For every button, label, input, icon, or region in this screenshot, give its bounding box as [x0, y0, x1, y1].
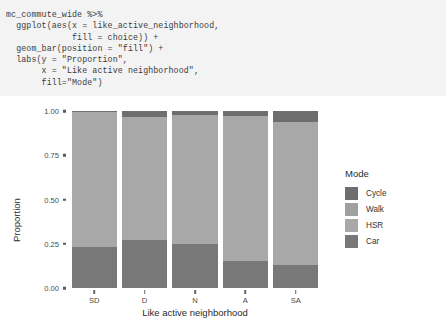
y-axis-tick-mark [63, 287, 66, 290]
bar-segment[interactable] [172, 115, 217, 244]
legend-item[interactable]: HSR [341, 217, 441, 233]
legend-swatch [345, 219, 358, 232]
bar-segment[interactable] [273, 122, 318, 265]
x-axis-tick-mark [194, 290, 196, 294]
x-axis-tick-mark [144, 290, 146, 294]
x-axis-tick-label: D [125, 296, 165, 305]
y-axis-tick-label: 0.75 [33, 151, 59, 160]
y-axis-tick-mark [63, 243, 66, 246]
legend-label: Cycle [366, 189, 386, 198]
legend-label: Walk [366, 205, 384, 214]
bar-segment[interactable] [72, 112, 117, 247]
y-axis-tick-label: 0.50 [33, 195, 59, 204]
bar-stack[interactable] [122, 111, 167, 288]
legend-item[interactable]: Walk [341, 201, 441, 217]
y-axis-tick-mark [63, 154, 66, 157]
x-axis-label: Like active neighborhood [69, 307, 321, 318]
bar-segment[interactable] [172, 111, 217, 115]
y-axis-tick-label: 0.25 [33, 239, 59, 248]
legend: Mode CycleWalkHSRCar [341, 168, 441, 249]
y-axis-tick-mark [63, 198, 66, 201]
bar-segment[interactable] [72, 247, 117, 288]
bar-segment[interactable] [122, 117, 167, 240]
bar-segment[interactable] [223, 261, 268, 288]
bar-segment[interactable] [122, 111, 167, 117]
bar-segment[interactable] [122, 240, 167, 288]
legend-swatch [345, 203, 358, 216]
x-axis-tick-label: N [175, 296, 215, 305]
legend-label: HSR [366, 221, 383, 230]
x-axis-tick-label: SA [276, 296, 316, 305]
bar-stack[interactable] [72, 111, 117, 288]
code-chunk: mc_commute_wide %>% ggplot(aes(x = like_… [0, 0, 446, 96]
bar-segment[interactable] [223, 116, 268, 261]
legend-swatch [345, 187, 358, 200]
x-axis-tick-label: SD [74, 296, 114, 305]
legend-items: CycleWalkHSRCar [341, 185, 441, 249]
bar-segment[interactable] [172, 244, 217, 288]
legend-swatch [345, 235, 358, 248]
bar-stack[interactable] [273, 111, 318, 288]
legend-item[interactable]: Cycle [341, 185, 441, 201]
x-axis-tick-mark [295, 290, 297, 294]
ggplot-figure: Proportion 0.000.250.500.751.00 SDDNASA … [0, 104, 446, 324]
y-axis-tick-label: 1.00 [33, 107, 59, 116]
code-chunk-text: mc_commute_wide %>% ggplot(aes(x = like_… [6, 9, 446, 88]
bar-segment[interactable] [273, 111, 318, 122]
legend-item[interactable]: Car [341, 233, 441, 249]
plot-panel [69, 111, 321, 288]
legend-label: Car [366, 237, 379, 246]
x-axis-tick-mark [245, 290, 247, 294]
y-axis-tick-mark [63, 110, 66, 113]
x-axis-tick-mark [93, 290, 95, 294]
bar-segment[interactable] [273, 265, 318, 288]
bar-segment[interactable] [72, 111, 117, 112]
y-axis-tick-label: 0.00 [33, 284, 59, 293]
x-axis-tick-label: A [225, 296, 265, 305]
legend-title: Mode [345, 168, 441, 179]
bar-stack[interactable] [223, 111, 268, 288]
bar-segment[interactable] [223, 111, 268, 116]
bar-stack[interactable] [172, 111, 217, 288]
